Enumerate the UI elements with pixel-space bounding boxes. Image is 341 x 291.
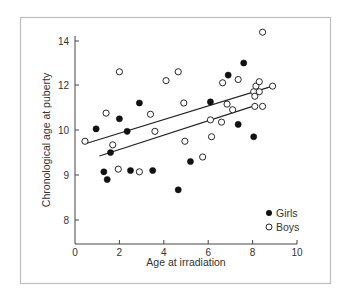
data-point-girls (116, 116, 122, 122)
data-point-boys (256, 89, 262, 95)
data-point-girls (241, 60, 247, 66)
x-axis-title: Age at irradiation (146, 256, 226, 268)
data-point-boys (163, 78, 169, 84)
legend-label-boys: Boys (276, 221, 299, 233)
data-point-girls (175, 187, 181, 193)
y-tick-label: 9 (63, 170, 69, 181)
data-point-girls (207, 99, 213, 105)
data-point-boys (147, 111, 153, 117)
x-tick-label: 2 (117, 247, 123, 258)
x-tick-label: 10 (291, 247, 303, 258)
filled-circle-icon (266, 210, 272, 216)
data-point-boys (181, 100, 187, 106)
data-point-boys (218, 119, 224, 125)
data-point-boys (224, 101, 230, 107)
y-tick-label: 8 (63, 215, 69, 226)
data-point-girls (251, 134, 257, 140)
data-point-girls (235, 121, 241, 127)
data-point-girls (107, 149, 113, 155)
data-point-boys (103, 110, 109, 116)
data-point-boys (230, 107, 236, 113)
data-point-girls (104, 176, 110, 182)
x-tick-label: 0 (72, 247, 78, 258)
data-point-girls (127, 167, 133, 173)
data-point-boys (252, 103, 258, 109)
data-point-boys (269, 83, 275, 89)
data-point-boys (182, 138, 188, 144)
data-point-boys (235, 76, 241, 82)
data-point-boys (220, 80, 226, 86)
data-point-boys (256, 79, 262, 85)
data-point-girls (225, 72, 231, 78)
data-point-girls (124, 128, 130, 134)
data-point-boys (259, 29, 265, 35)
data-point-girls (136, 100, 142, 106)
open-circle-icon (266, 224, 272, 230)
data-point-boys (136, 169, 142, 175)
chart: 89101214 0246810 Chronological age at pu… (0, 0, 341, 291)
data-point-girls (150, 167, 156, 173)
data-point-girls (187, 158, 193, 164)
y-tick-label: 12 (58, 80, 70, 91)
data-point-boys (175, 69, 181, 75)
legend-label-girls: Girls (276, 207, 298, 219)
y-axis-title: Chronological age at puberty (40, 72, 52, 207)
x-tick-label: 8 (250, 247, 256, 258)
data-point-girls (93, 126, 99, 132)
data-point-boys (207, 117, 213, 123)
y-tick-label: 14 (58, 36, 70, 47)
data-point-boys (152, 128, 158, 134)
data-point-boys (110, 142, 116, 148)
y-tick-label: 10 (58, 125, 70, 136)
data-point-girls (101, 169, 107, 175)
data-point-boys (115, 166, 121, 172)
data-point-boys (200, 154, 206, 160)
data-point-boys (259, 103, 265, 109)
data-point-boys (82, 138, 88, 144)
data-point-boys (116, 69, 122, 75)
data-point-boys (208, 134, 214, 140)
